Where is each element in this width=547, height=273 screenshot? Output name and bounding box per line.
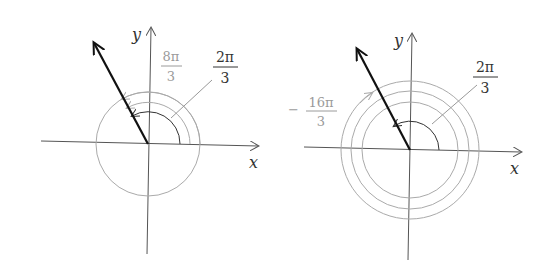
- arc-2pi-over-3: [394, 121, 439, 150]
- y-axis-label: y: [131, 25, 142, 44]
- leader-line: [432, 85, 477, 124]
- denominator: 3: [481, 80, 490, 96]
- label-2pi-over-3: 2π 3: [213, 49, 238, 86]
- denominator: 3: [221, 70, 230, 86]
- terminal-ray: [94, 43, 148, 144]
- coterminal-angles-diagram: y x 8π 3 2π 3 y x − 16π 3 2π: [0, 0, 547, 273]
- denominator: 3: [317, 114, 325, 129]
- x-axis-label: x: [510, 159, 519, 178]
- arc-neg-16pi-over-3-arrow: [360, 93, 372, 103]
- numerator: 2π: [216, 49, 234, 65]
- x-axis: [304, 147, 521, 152]
- y-axis-label: y: [393, 31, 404, 50]
- sign: −: [288, 102, 299, 117]
- label-2pi-over-3: 2π 3: [473, 59, 498, 96]
- numerator: 16π: [308, 95, 334, 110]
- label-neg-16pi-over-3: − 16π 3: [288, 95, 337, 129]
- label-8pi-over-3: 8π 3: [161, 49, 182, 84]
- denominator: 3: [167, 69, 175, 84]
- arc-8pi-over-3: [152, 144, 238, 230]
- left-figure: y x 8π 3 2π 3: [41, 25, 258, 254]
- x-axis: [41, 141, 258, 146]
- numerator: 8π: [163, 49, 180, 64]
- right-figure: y x − 16π 3 2π 3: [288, 31, 521, 260]
- numerator: 2π: [476, 59, 494, 75]
- x-axis-label: x: [249, 153, 258, 172]
- leader-line: [171, 80, 212, 118]
